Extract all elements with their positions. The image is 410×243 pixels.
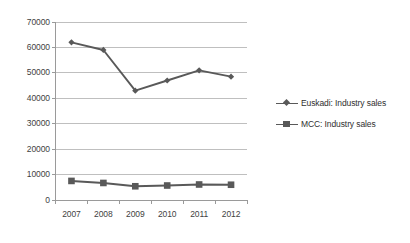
- axis-lines: [52, 22, 247, 200]
- data-point-marker: [164, 77, 170, 83]
- legend-item[interactable]: MCC: Industry sales: [276, 116, 408, 132]
- y-axis-tick-label: 10000: [6, 169, 50, 179]
- chart-legend: Euskadi: Industry salesMCC: Industry sal…: [276, 95, 408, 137]
- y-axis-tick-label: 0: [6, 195, 50, 205]
- data-point-marker: [68, 39, 74, 45]
- x-axis-tick-marks: [56, 200, 248, 204]
- y-axis-tick-label: 20000: [6, 144, 50, 154]
- legend-label: MCC: Industry sales: [301, 119, 376, 129]
- x-axis-tick-label: 2012: [211, 209, 251, 219]
- line-chart: 010000200003000040000500006000070000 200…: [0, 0, 410, 243]
- y-axis-tick-label: 50000: [6, 67, 50, 77]
- gridlines: [56, 22, 248, 200]
- legend-marker-diamond-icon: [276, 98, 298, 108]
- y-axis-tick-label: 30000: [6, 118, 50, 128]
- y-axis-tick-label: 40000: [6, 93, 50, 103]
- data-point-marker: [100, 180, 107, 187]
- series-line-1: [71, 181, 231, 186]
- data-series-layer: [68, 39, 234, 189]
- legend-marker-shape: [283, 121, 290, 128]
- legend-item[interactable]: Euskadi: Industry sales: [276, 95, 408, 111]
- series-line-0: [71, 42, 231, 90]
- data-point-marker: [164, 182, 171, 189]
- data-point-marker: [132, 183, 139, 190]
- data-point-marker: [68, 178, 75, 185]
- legend-label: Euskadi: Industry sales: [301, 98, 386, 108]
- y-axis-tick-label: 60000: [6, 42, 50, 52]
- data-point-marker: [228, 74, 234, 80]
- y-axis-tick-label: 70000: [6, 17, 50, 27]
- legend-marker-shape: [282, 99, 289, 106]
- data-point-marker: [228, 181, 235, 188]
- legend-marker-square-icon: [276, 119, 298, 129]
- data-point-marker: [196, 181, 203, 188]
